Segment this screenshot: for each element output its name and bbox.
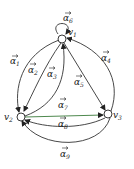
vertex-v2 — [17, 113, 25, 121]
svg-text:α4: α4 — [101, 53, 111, 64]
svg-text:α5: α5 — [74, 77, 84, 88]
edge-a5 — [64, 43, 105, 110]
edge-label-a9: α9 — [60, 147, 70, 161]
vertex-label-v3: v3 — [113, 110, 122, 121]
svg-text:α2: α2 — [28, 65, 38, 76]
svg-text:α6: α6 — [63, 13, 73, 24]
edge-label-a8: α8 — [58, 117, 68, 131]
vertex-label-v2: v2 — [4, 112, 13, 123]
vertex-label-v1: v1 — [68, 27, 77, 38]
svg-text:α7: α7 — [58, 100, 68, 111]
edge-label-a6: α6 — [63, 12, 73, 25]
svg-text:α3: α3 — [47, 69, 57, 80]
svg-text:α9: α9 — [60, 149, 70, 160]
edge-a4 — [67, 38, 114, 111]
edge-label-a7: α7 — [58, 98, 68, 112]
edge-label-a4: α4 — [101, 51, 111, 65]
edge-a6 — [56, 24, 68, 35]
svg-text:α8: α8 — [58, 119, 68, 130]
edge-label-a2: α2 — [28, 63, 38, 77]
graph-diagram: v1 v2 v3 α6 α1 α2 α3 α4 α5 α7 α8 α9 — [0, 0, 134, 169]
edge-label-a1: α1 — [10, 55, 20, 68]
vertex-v1 — [58, 35, 66, 43]
vertex-v3 — [104, 110, 112, 118]
edge-label-a5: α5 — [74, 75, 84, 89]
edge-label-a3: α3 — [47, 67, 57, 81]
svg-text:α1: α1 — [10, 56, 20, 67]
